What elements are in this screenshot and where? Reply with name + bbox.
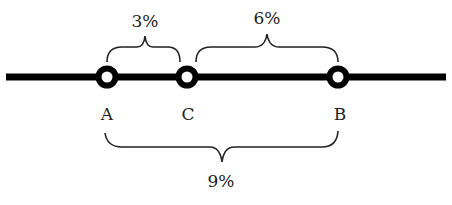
brace-c-b [196,34,338,62]
point-a [99,69,116,86]
segment-label-ab: 9% [208,171,235,191]
number-line-diagram: 3% 6% 9% A C B [0,0,452,205]
point-c [179,69,196,86]
point-b [330,69,347,86]
point-label-c: C [181,104,194,124]
brace-a-c [107,36,180,62]
point-label-a: A [100,104,114,124]
segment-label-cb: 6% [254,8,281,28]
brace-a-b [105,131,338,162]
point-label-b: B [334,104,347,124]
segment-label-ac: 3% [132,11,159,31]
